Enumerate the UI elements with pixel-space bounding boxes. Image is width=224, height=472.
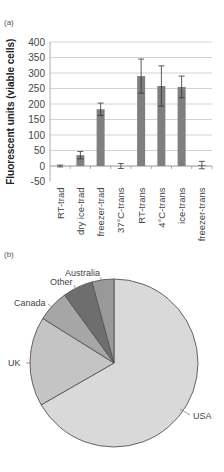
y-tick-label: 350 [28, 52, 45, 63]
y-axis-title: Fluorescent units (viable cells) [5, 39, 16, 185]
bar [97, 109, 105, 166]
bar [178, 87, 186, 166]
y-tick-label: 50 [34, 145, 46, 156]
x-category-label: freezer-trad [95, 188, 106, 237]
y-tick-label: 150 [28, 114, 45, 125]
x-category-label: 4°C-trans [156, 187, 167, 227]
x-category-label: freezer-trans [196, 187, 207, 241]
pie-chart: USAUKCanadaOtherAustralia [0, 257, 224, 472]
y-tick-label: 100 [28, 130, 45, 141]
x-category-label: RT-trad [55, 188, 66, 220]
pie-label: USA [193, 411, 212, 421]
x-category-label: RT-trans [136, 187, 147, 224]
y-tick-label: -50 [31, 176, 46, 187]
y-tick-label: 300 [28, 68, 45, 79]
y-tick-label: 250 [28, 83, 45, 94]
x-category-label: 37°C-trans [115, 187, 126, 233]
y-tick-label: 0 [39, 161, 45, 172]
pie-label: Canada [14, 298, 46, 308]
pie-label: Australia [65, 268, 100, 278]
y-tick-label: 200 [28, 99, 45, 110]
x-category-label: ice-trans [176, 187, 187, 224]
x-category-label: dry ice-trad [75, 188, 86, 236]
y-tick-label: 400 [28, 37, 45, 48]
bar-chart: -50050100150200250300350400Fluorescent u… [0, 0, 224, 250]
leader-line [48, 304, 52, 307]
pie-label: UK [8, 358, 21, 368]
pie-label: Other [50, 277, 73, 287]
